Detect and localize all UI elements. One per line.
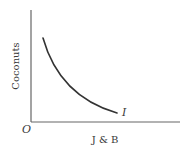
curve-label: I [121,106,127,119]
x-axis-label: J & B [91,134,119,145]
curve-i [43,38,117,113]
origin-label: O [22,123,31,136]
indifference-curve-chart: I O J & B Coconuts [0,0,190,155]
y-axis-label: Coconuts [10,42,21,89]
